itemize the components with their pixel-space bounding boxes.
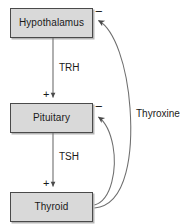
thyroid-axis-diagram: Hypothalamus Pituitary Thyroid TRH TSH T… [0,0,189,224]
node-pituitary[interactable]: Pituitary [10,103,93,133]
edge-label-thyroxine: Thyroxine [136,109,180,119]
edge-label-trh: TRH [59,63,80,73]
sign-plus-trh: + [43,89,49,100]
sign-plus-tsh: + [43,178,49,189]
node-thyroid-label: Thyroid [34,202,68,212]
node-hypothalamus-label: Hypothalamus [19,18,84,28]
edge-label-tsh: TSH [59,152,79,162]
sign-minus-pituitary: − [95,100,103,113]
node-hypothalamus[interactable]: Hypothalamus [10,8,93,38]
edge-thyroxine-to-pituitary-curve [95,117,115,205]
sign-minus-hypothalamus: − [95,5,103,18]
node-pituitary-label: Pituitary [33,113,70,123]
node-thyroid[interactable]: Thyroid [10,192,93,222]
